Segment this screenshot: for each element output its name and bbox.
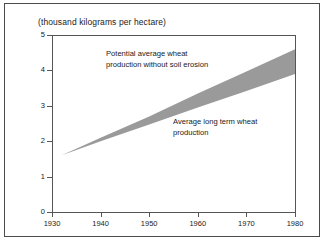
x-tick-label-1970: 1970 xyxy=(226,220,266,228)
chart-title: (thousand kilograms per hectare) xyxy=(38,17,166,27)
x-tick-mark-1960 xyxy=(198,212,199,217)
y-tick-2: 2 xyxy=(13,141,45,142)
x-tick-mark-1970 xyxy=(246,212,247,217)
potential-production-label: Potential average wheat production witho… xyxy=(106,48,208,70)
actual-production-line-1: Average long term wheat xyxy=(173,116,257,127)
x-tick-label-1930: 1930 xyxy=(32,220,72,228)
actual-production-label: Average long term wheat production xyxy=(173,116,257,138)
y-tick-3: 3 xyxy=(13,106,45,107)
y-tick-label-5: 5 xyxy=(21,31,45,39)
y-tick-label-4: 4 xyxy=(21,66,45,74)
potential-production-line-2: production without soil erosion xyxy=(106,59,208,70)
x-tick-mark-1930 xyxy=(52,212,53,217)
y-tick-0: 0 xyxy=(13,212,45,213)
x-tick-mark-1980 xyxy=(295,212,296,217)
actual-production-line-2: production xyxy=(173,127,257,138)
y-tick-label-3: 3 xyxy=(21,102,45,110)
y-tick-label-0: 0 xyxy=(21,208,45,216)
y-tick-1: 1 xyxy=(13,177,45,178)
y-tick-label-2: 2 xyxy=(21,137,45,145)
y-tick-4: 4 xyxy=(13,70,45,71)
y-tick-5: 5 xyxy=(13,35,45,36)
x-tick-mark-1950 xyxy=(149,212,150,217)
chart-frame: (thousand kilograms per hectare) 5 4 3 2… xyxy=(4,3,320,237)
chart-page: (thousand kilograms per hectare) 5 4 3 2… xyxy=(0,0,324,245)
x-tick-label-1940: 1940 xyxy=(81,220,121,228)
y-tick-label-1: 1 xyxy=(21,173,45,181)
potential-production-line-1: Potential average wheat xyxy=(106,48,208,59)
x-axis-line xyxy=(52,212,296,213)
x-tick-label-1960: 1960 xyxy=(178,220,218,228)
right-axis-line xyxy=(295,35,296,213)
x-tick-label-1950: 1950 xyxy=(129,220,169,228)
x-tick-label-1980: 1980 xyxy=(275,220,315,228)
x-tick-mark-1940 xyxy=(101,212,102,217)
